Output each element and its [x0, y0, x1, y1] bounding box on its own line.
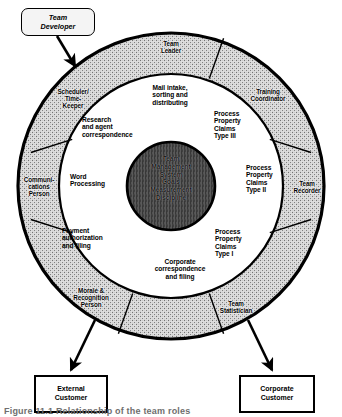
arrow-corporate-customer	[248, 320, 272, 370]
figure-caption: Figure 11.1 Relationship of the team rol…	[4, 406, 338, 417]
center-hub	[127, 142, 215, 230]
arrow-external-customer	[71, 320, 95, 370]
arrow-team-developer	[57, 36, 75, 66]
wheel-graphic	[0, 0, 342, 417]
team-wheel-diagram: Team Leader Training Coordinator Team Re…	[0, 0, 342, 417]
callout-team-developer[interactable]: Team Developer	[21, 8, 95, 36]
